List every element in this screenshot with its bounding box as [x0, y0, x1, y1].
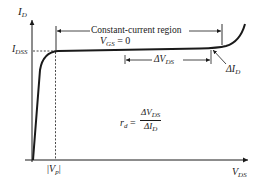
delta-id-label: ΔID [226, 64, 240, 76]
idss-label: IDSS [12, 44, 27, 56]
rd-formula-lhs: rd = [120, 118, 136, 130]
rd-numerator: ΔVDS [140, 108, 161, 121]
x-axis-label: VDS [232, 167, 247, 179]
rd-formula-fraction: ΔVDS ΔID [140, 108, 161, 133]
rd-denominator: ΔID [144, 121, 157, 133]
y-axis-label: ID [18, 6, 27, 19]
characteristic-curve [33, 24, 245, 160]
delta-id-pointer [213, 50, 226, 64]
vgs-label: VGS = 0 [100, 36, 130, 48]
vp-label: |Vp| [47, 164, 61, 176]
delta-vds-label: ΔVDS [154, 55, 174, 66]
